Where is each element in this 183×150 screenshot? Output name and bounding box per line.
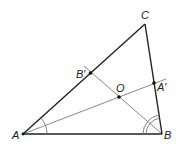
label-a-prime: A′ <box>156 81 167 93</box>
vertex-a-point <box>22 133 25 136</box>
point-o <box>117 95 121 99</box>
label-b: B <box>164 129 171 141</box>
point-a-prime <box>152 81 156 85</box>
diagram-svg: A B C B′ O A′ <box>0 0 183 150</box>
side-bc <box>145 24 162 134</box>
label-o: O <box>116 82 125 94</box>
point-b-prime <box>89 71 93 75</box>
label-c: C <box>141 9 149 21</box>
bisector-from-b <box>84 66 162 134</box>
triangle-diagram: A B C B′ O A′ <box>0 0 183 150</box>
label-a: A <box>11 129 19 141</box>
label-b-prime: B′ <box>76 68 86 80</box>
